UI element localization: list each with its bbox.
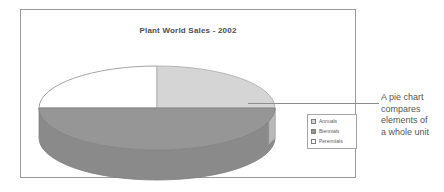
legend-item-annuals[interactable]: Annuals [310,117,354,126]
pie-slice-annuals [157,66,275,108]
legend-label-perennials: Perennials [319,138,343,145]
screenshot-root: Plant World Sales - 2002 Annual [0,0,444,192]
annotation-line-1: A pie chart [381,92,443,104]
annotation-line-2: compares [381,104,443,116]
pie-chart-svg [39,60,275,168]
chart-legend: Annuals Biennials Perennials [307,114,357,149]
chart-title: Plant World Sales - 2002 [21,26,355,35]
legend-swatch-perennials [311,139,316,144]
chart-frame: Plant World Sales - 2002 Annual [20,9,356,178]
legend-label-biennials: Biennials [319,128,339,135]
legend-swatch-biennials [311,129,316,134]
legend-item-perennials[interactable]: Perennials [310,137,354,146]
pie-chart [39,60,275,168]
legend-label-annuals: Annuals [319,118,337,125]
legend-item-biennials[interactable]: Biennials [310,127,354,136]
annotation-line-3: elements of [381,115,443,127]
annotation-line-4: a whole unit [381,127,443,139]
pie-slice-perennials [39,66,157,108]
callout-leader-line [248,103,379,104]
callout-annotation: A pie chart compares elements of a whole… [381,92,443,138]
legend-swatch-annuals [311,119,316,124]
